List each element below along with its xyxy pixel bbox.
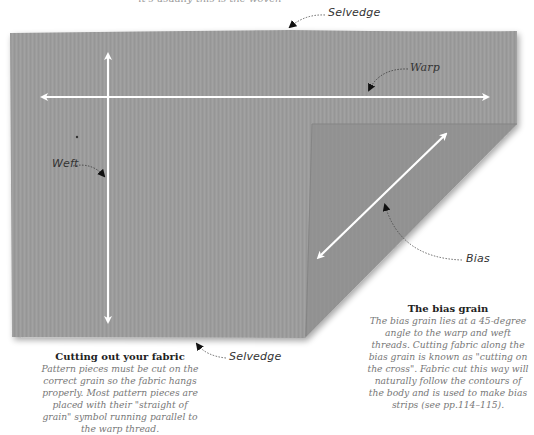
caption-cutting-body: Pattern pieces must be cut on the correc… [40,363,200,435]
label-bias: Bias [466,252,490,265]
caption-bias-body: The bias grain lies at a 45-degree angle… [367,315,529,411]
caption-cutting: Cutting out your fabric Pattern pieces m… [40,350,200,435]
caption-bias: The bias grain The bias grain lies at a … [367,302,529,411]
label-selvedge-bottom: Selvedge [229,350,281,363]
label-warp: Warp [410,61,440,74]
selvedge-top-pointer [290,15,325,27]
caption-bias-title: The bias grain [367,302,529,315]
caption-cutting-title: Cutting out your fabric [40,350,200,363]
label-weft: Weft [52,157,79,170]
label-selvedge-top: Selvedge [328,6,380,19]
selvedge-bottom-pointer [197,344,226,358]
